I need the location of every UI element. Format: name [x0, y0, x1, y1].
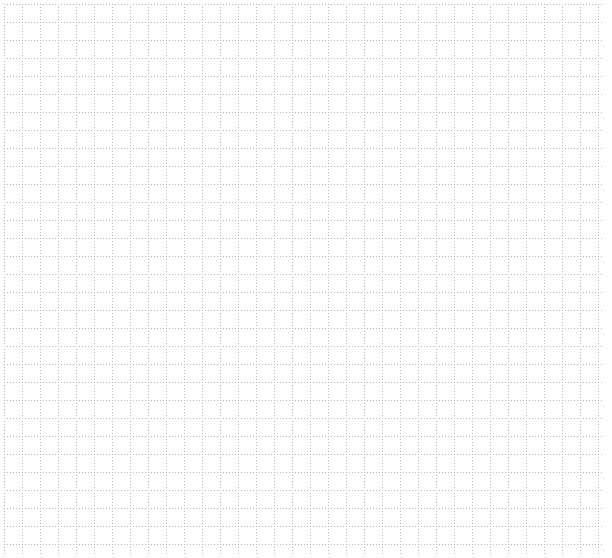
grid-lines: [0, 0, 612, 558]
diagram-canvas[interactable]: [0, 0, 612, 558]
